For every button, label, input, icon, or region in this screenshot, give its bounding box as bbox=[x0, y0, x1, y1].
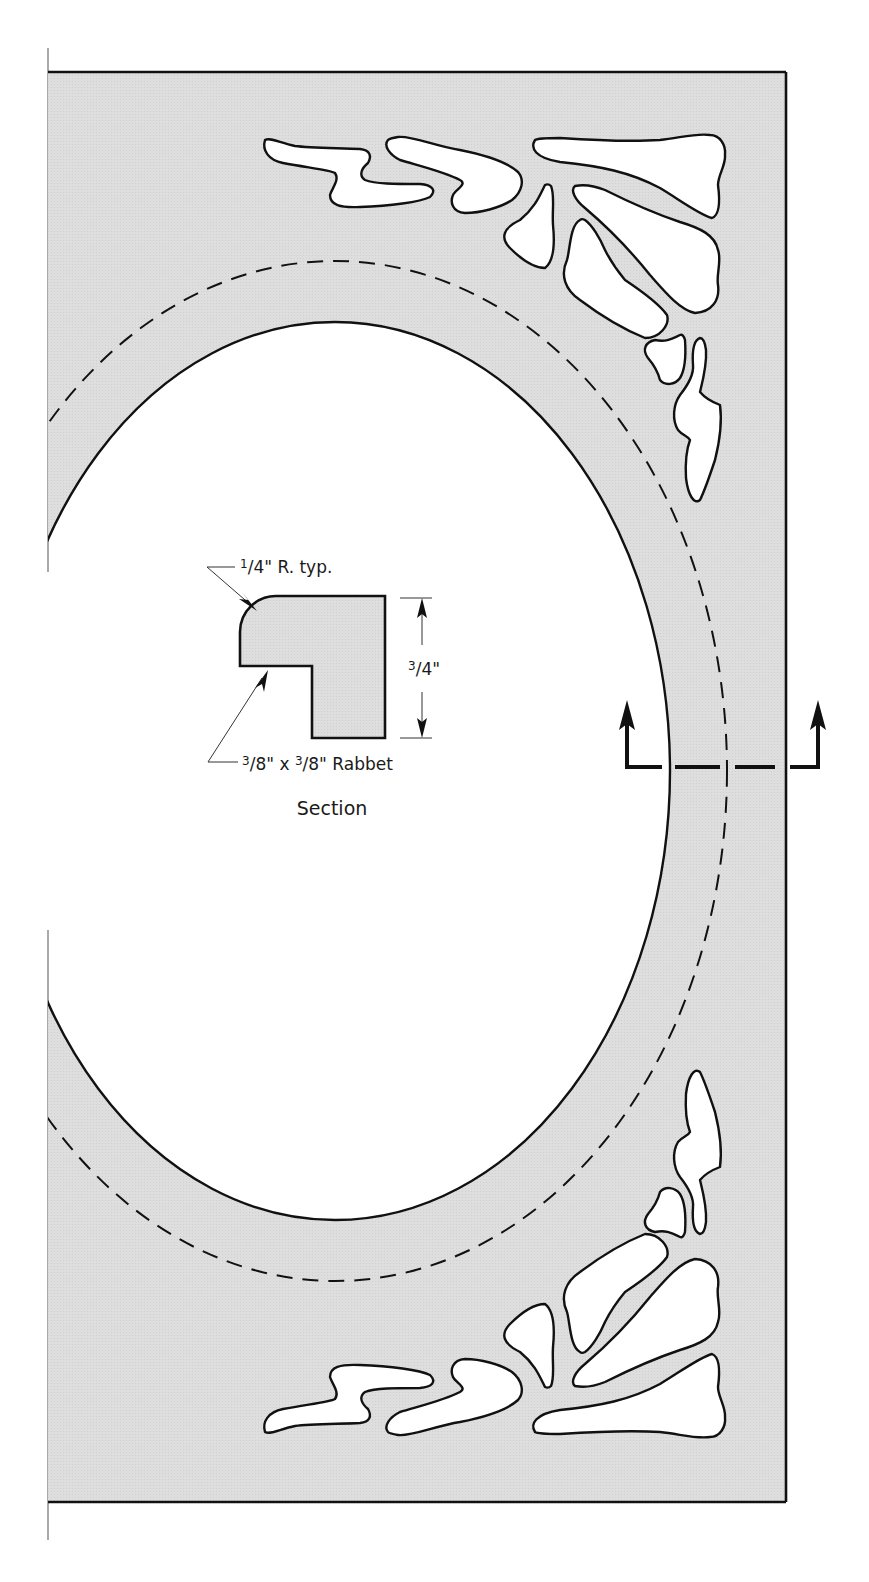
section-detail: 3/4" 1/4" R. typ. 3/8" x 3/8" Rabbet Sec… bbox=[207, 557, 440, 819]
frame-drawing: 3/4" 1/4" R. typ. 3/8" x 3/8" Rabbet Sec… bbox=[0, 0, 869, 1582]
section-profile bbox=[240, 596, 385, 738]
rabbet-note: 3/8" x 3/8" Rabbet bbox=[242, 754, 393, 774]
radius-note: 1/4" R. typ. bbox=[240, 557, 332, 577]
thickness-dimension-label: 3/4" bbox=[408, 659, 440, 679]
leader-arrow-icon bbox=[255, 670, 268, 692]
section-title: Section bbox=[297, 797, 368, 819]
